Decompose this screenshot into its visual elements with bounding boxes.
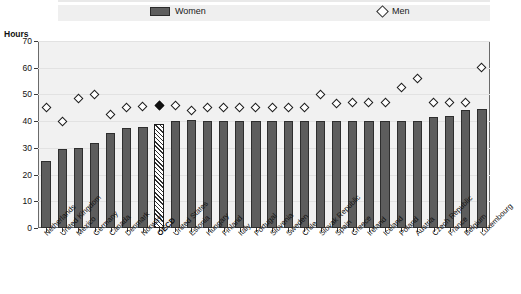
marker-united-states[interactable] — [170, 100, 180, 110]
marker-italy[interactable] — [235, 103, 245, 113]
filled-rect-icon — [150, 7, 170, 16]
bar-luxembourg[interactable] — [477, 109, 486, 228]
bar-italy[interactable] — [235, 121, 244, 228]
legend-item-men: Men — [378, 7, 410, 16]
marker-czech-republic[interactable] — [429, 97, 439, 107]
bar-hungary[interactable] — [203, 121, 212, 228]
bar-slovak-republic[interactable] — [316, 121, 325, 228]
marker-poland[interactable] — [396, 83, 406, 93]
chart-legend: Women Men — [58, 5, 490, 21]
marker-belgium[interactable] — [461, 97, 471, 107]
y-axis-tick-label: 20 — [23, 170, 32, 180]
marker-mexico[interactable] — [73, 93, 83, 103]
chart-root: Women Men Hours 010203040506070 Netherla… — [0, 0, 521, 294]
marker-united-kingdom[interactable] — [57, 116, 67, 126]
marker-denmark[interactable] — [122, 103, 132, 113]
marker-iceland[interactable] — [380, 97, 390, 107]
top-divider — [58, 0, 490, 2]
marker-germany[interactable] — [90, 89, 100, 99]
bar-united-states[interactable] — [171, 121, 180, 228]
marker-oecd[interactable] — [154, 100, 164, 110]
y-axis-tick-label: 40 — [23, 116, 32, 126]
legend-item-women: Women — [150, 7, 206, 16]
y-axis-tick-label: 70 — [23, 36, 32, 46]
marker-canada[interactable] — [106, 110, 116, 120]
marker-spain[interactable] — [332, 99, 342, 109]
y-axis-tick-label: 10 — [23, 196, 32, 206]
marker-sweden[interactable] — [283, 103, 293, 113]
marker-ireland[interactable] — [364, 97, 374, 107]
marker-france[interactable] — [445, 97, 455, 107]
marker-hungary[interactable] — [203, 103, 213, 113]
y-axis-tick-label: 60 — [23, 63, 32, 73]
legend-label-men: Men — [392, 7, 410, 16]
bar-ireland[interactable] — [364, 121, 373, 228]
marker-luxembourg[interactable] — [477, 63, 487, 73]
series-layer — [38, 41, 490, 228]
marker-estonia[interactable] — [186, 106, 196, 116]
marker-portugal[interactable] — [251, 103, 261, 113]
y-axis-tick-label: 30 — [23, 143, 32, 153]
marker-slovak-republic[interactable] — [316, 89, 326, 99]
x-axis-labels: NetherlandsUnited KingdomMexicoGermanyCa… — [0, 232, 521, 294]
marker-netherlands[interactable] — [41, 103, 51, 113]
plot-area-wrapper: 010203040506070 — [38, 41, 490, 228]
bar-czech-republic[interactable] — [429, 117, 438, 228]
bar-iceland[interactable] — [380, 121, 389, 228]
marker-finland[interactable] — [219, 103, 229, 113]
bar-netherlands[interactable] — [41, 161, 50, 228]
bar-portugal[interactable] — [251, 121, 260, 228]
bar-austria[interactable] — [413, 121, 422, 228]
bar-oecd[interactable] — [154, 124, 163, 228]
y-axis-tick-label: 50 — [23, 89, 32, 99]
bar-greece[interactable] — [348, 121, 357, 228]
open-diamond-icon — [376, 5, 389, 18]
marker-slovenia[interactable] — [267, 103, 277, 113]
marker-chile[interactable] — [299, 103, 309, 113]
marker-austria[interactable] — [412, 73, 422, 83]
bar-poland[interactable] — [397, 121, 406, 228]
marker-greece[interactable] — [348, 97, 358, 107]
legend-label-women: Women — [175, 7, 206, 16]
marker-norway[interactable] — [138, 101, 148, 111]
